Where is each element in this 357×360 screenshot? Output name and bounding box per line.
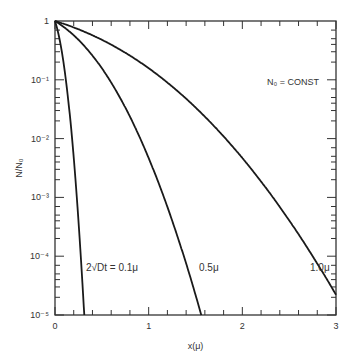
y-tick-label: 1 [44, 16, 49, 26]
labels: 0123110⁻¹10⁻²10⁻³10⁻⁴10⁻⁵x(μ)N/N₀N₀ = CO… [14, 16, 339, 351]
x-tick-label: 3 [333, 321, 338, 331]
y-axis-label: N/N₀ [14, 158, 24, 177]
diffusion-profile-chart: 0123110⁻¹10⁻²10⁻³10⁻⁴10⁻⁵x(μ)N/N₀N₀ = CO… [0, 0, 357, 360]
annotation-n0-const: N₀ = CONST [267, 77, 319, 87]
y-tick-label: 10⁻¹ [31, 75, 49, 85]
x-tick-label: 0 [52, 321, 57, 331]
series-label-0-5: 0.5μ [199, 262, 219, 273]
y-tick-label: 10⁻⁵ [30, 310, 49, 320]
y-tick-label: 10⁻³ [31, 192, 49, 202]
y-tick-label: 10⁻⁴ [30, 251, 49, 261]
curve-0-1 [55, 21, 84, 315]
series-label-0-1: 2√Dt = 0.1μ [86, 262, 138, 273]
x-axis-label: x(μ) [188, 341, 204, 351]
x-tick-label: 1 [146, 321, 151, 331]
y-tick-label: 10⁻² [31, 134, 49, 144]
x-tick-label: 2 [240, 321, 245, 331]
series-label-1-0: 1.0μ [310, 262, 330, 273]
